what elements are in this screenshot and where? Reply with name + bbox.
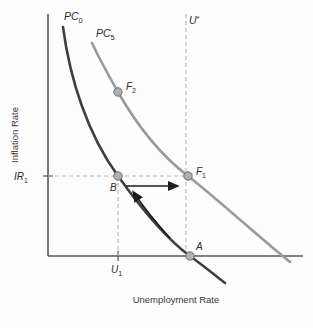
x-axis-title: Unemployment Rate <box>133 294 220 305</box>
point-label-a: A <box>195 241 203 252</box>
marker-point-f1[interactable] <box>184 172 192 180</box>
phillips-curve-figure: PC0 PC5 U* F2 B F1 A IR1 <box>0 0 313 328</box>
marker-point-b[interactable] <box>114 172 122 180</box>
y-axis-title: Inflation Rate <box>9 107 20 163</box>
point-label-b: B <box>110 182 117 193</box>
marker-point-a[interactable] <box>186 252 194 260</box>
marker-point-f2[interactable] <box>114 88 122 96</box>
figure-background <box>0 0 313 328</box>
chart-canvas: PC0 PC5 U* F2 B F1 A IR1 <box>0 0 313 328</box>
